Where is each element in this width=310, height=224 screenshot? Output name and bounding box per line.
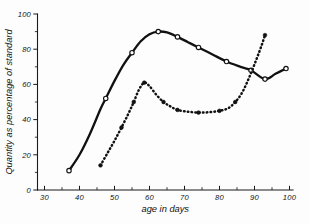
series-0-marker-2: [130, 51, 134, 55]
y-tick-label: 80: [22, 45, 31, 54]
y-axis-tick-labels: 020406080100: [18, 10, 32, 195]
x-axis-title: age in days: [141, 204, 189, 214]
series-1-marker-6: [197, 111, 201, 115]
series-1-marker-7: [218, 109, 222, 113]
series-line-0: [69, 31, 286, 170]
series-1-marker-9: [263, 33, 267, 37]
x-axis-tick-labels: 30405060708090100: [40, 193, 297, 202]
x-tick-label: 90: [250, 193, 259, 202]
series-0-marker-9: [284, 66, 288, 70]
series-0-marker-5: [196, 45, 200, 49]
y-tick-label: 40: [22, 115, 31, 124]
series-0-marker-8: [263, 77, 267, 81]
series-0-marker-4: [175, 35, 179, 39]
series-dotted-filled-circle-curve: [99, 33, 267, 167]
series-line-1: [101, 35, 266, 165]
x-tick-label: 100: [283, 193, 297, 202]
series-1-marker-1: [120, 126, 124, 130]
series-1-marker-2: [132, 100, 136, 104]
x-tick-label: 50: [110, 193, 119, 202]
x-tick-label: 60: [145, 193, 154, 202]
y-axis-title: Quantity as percentage of standard: [4, 29, 14, 175]
series-solid-open-circle-curve: [67, 29, 288, 172]
x-tick-label: 30: [40, 193, 49, 202]
series-1-marker-5: [176, 108, 180, 112]
x-tick-label: 80: [215, 193, 224, 202]
y-tick-label: 20: [21, 151, 31, 160]
series-1-marker-0: [99, 163, 103, 167]
series-1-marker-8: [233, 100, 237, 104]
y-tick-label: 60: [22, 80, 31, 89]
x-axis-ticks: [45, 186, 290, 190]
series-1-marker-4: [162, 100, 166, 104]
chart-figure: 020406080100 30405060708090100 age in da…: [0, 0, 310, 224]
line-chart-plot: 020406080100 30405060708090100 age in da…: [0, 0, 310, 224]
y-axis-ticks: [33, 14, 37, 190]
x-tick-label: 40: [75, 193, 84, 202]
series-0-marker-0: [67, 168, 71, 172]
series-0-marker-1: [104, 96, 108, 100]
data-series-group: [67, 29, 288, 172]
series-0-marker-3: [156, 29, 160, 33]
series-1-marker-3: [142, 81, 146, 85]
y-tick-label: 0: [27, 186, 32, 195]
series-0-marker-6: [224, 59, 228, 63]
x-tick-label: 70: [180, 193, 189, 202]
y-tick-label: 100: [18, 10, 32, 19]
